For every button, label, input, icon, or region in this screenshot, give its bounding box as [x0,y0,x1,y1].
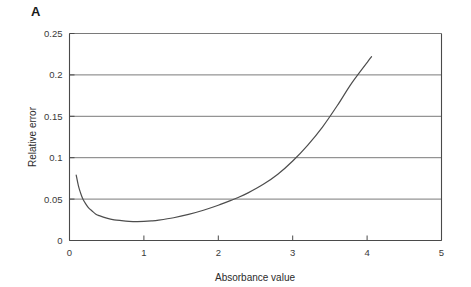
figure-panel-a: A 012345 00.050.10.150.20.25 Absorbance … [0,0,471,287]
y-axis-tick-labels: 00.050.10.150.20.25 [44,28,63,246]
x-tick-label: 3 [290,247,295,258]
y-axis-ticks [70,34,75,241]
x-tick-label: 5 [439,247,444,258]
y-axis-title: Relative error [27,106,38,167]
x-tick-label: 0 [67,247,72,258]
y-tick-label: 0.1 [49,152,62,163]
gridlines [70,34,442,200]
data-series-line [76,57,371,222]
x-axis-ticks [70,236,442,241]
x-tick-label: 2 [216,247,221,258]
x-tick-label: 4 [364,247,369,258]
x-axis-title: Absorbance value [215,272,295,283]
x-axis-tick-labels: 012345 [67,247,444,258]
y-tick-label: 0 [57,235,62,246]
relative-error-line-chart: 012345 00.050.10.150.20.25 Absorbance va… [0,0,471,287]
y-tick-label: 0.15 [44,111,63,122]
x-tick-label: 1 [141,247,146,258]
y-tick-label: 0.05 [44,194,63,205]
y-tick-label: 0.2 [49,69,62,80]
y-tick-label: 0.25 [44,28,63,39]
